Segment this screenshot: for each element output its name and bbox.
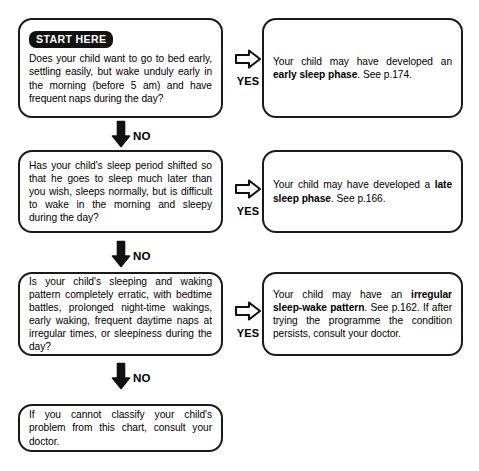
arrow-down-icon (110, 120, 132, 152)
arrow-right-icon (234, 48, 262, 74)
no-connector-3: NO (110, 362, 151, 394)
start-here-badge: START HERE (29, 31, 113, 48)
no-label-3: NO (133, 372, 151, 384)
outcome-2-tail: . See p.166. (331, 193, 386, 204)
outcome-1-strong: early sleep phase (273, 69, 357, 80)
arrow-right-icon (234, 178, 262, 204)
outcome-1-lead: Your child may have developed an (273, 56, 452, 67)
flowchart-canvas: START HERE Does your child want to go to… (0, 0, 479, 471)
question-node-2[interactable]: Has your child's sleep period shifted so… (18, 150, 223, 233)
question-3-text: Is your child's sleeping and waking patt… (29, 275, 212, 354)
outcome-node-1[interactable]: Your child may have developed an early s… (262, 18, 463, 118)
no-connector-1: NO (110, 120, 151, 152)
outcome-1-tail: . See p.174. (357, 69, 412, 80)
arrow-right-icon (234, 300, 262, 326)
no-connector-2: NO (110, 240, 151, 272)
yes-label-2: YES (237, 205, 260, 217)
question-1-text: Does your child want to go to bed early,… (29, 52, 212, 104)
no-label-1: NO (133, 130, 151, 142)
no-label-2: NO (133, 250, 151, 262)
outcome-node-3[interactable]: Your child may have an irregular sleep-w… (262, 272, 463, 356)
question-node-1[interactable]: START HERE Does your child want to go to… (18, 18, 223, 118)
question-2-text: Has your child's sleep period shifted so… (29, 159, 212, 224)
outcome-1-text: Your child may have developed an early s… (273, 55, 452, 81)
outcome-2-text: Your child may have developed a late sle… (273, 178, 452, 204)
terminal-node[interactable]: If you cannot classify your child's prob… (18, 404, 223, 452)
terminal-text: If you cannot classify your child's prob… (29, 408, 212, 447)
arrow-down-icon (110, 240, 132, 272)
outcome-3-lead: Your child may have an (273, 289, 411, 300)
outcome-2-lead: Your child may have developed a (273, 179, 435, 190)
question-node-3[interactable]: Is your child's sleeping and waking patt… (18, 272, 223, 356)
outcome-node-2[interactable]: Your child may have developed a late sle… (262, 150, 463, 233)
arrow-down-icon (110, 362, 132, 394)
yes-label-3: YES (237, 327, 260, 339)
yes-label-1: YES (237, 75, 260, 87)
outcome-3-text: Your child may have an irregular sleep-w… (273, 288, 452, 340)
